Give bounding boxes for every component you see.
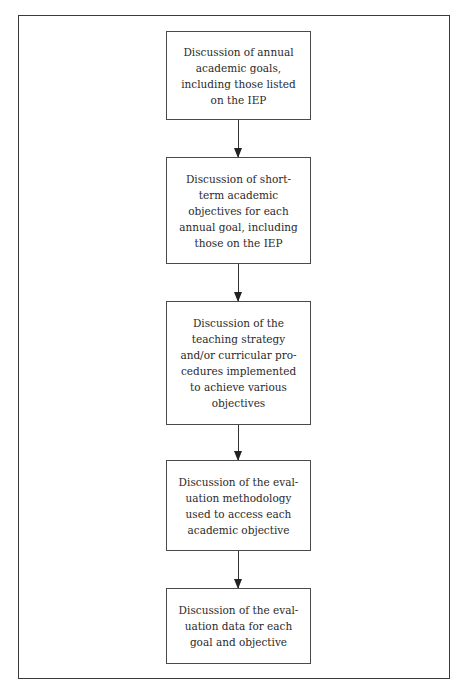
flow-step-evaluation-data: Discussion of the eval- uation data for … bbox=[166, 588, 311, 664]
flow-step-annual-goals: Discussion of annual academic goals, inc… bbox=[166, 31, 311, 120]
flow-step-evaluation-methodology: Discussion of the eval- uation methodolo… bbox=[166, 460, 311, 551]
flow-step-label: Discussion of short- term academic objec… bbox=[179, 171, 298, 251]
flow-step-label: Discussion of the eval- uation methodolo… bbox=[179, 474, 299, 538]
arrow-down-icon bbox=[238, 264, 239, 301]
flow-step-label: Discussion of annual academic goals, inc… bbox=[181, 44, 296, 108]
arrow-down-icon bbox=[238, 425, 239, 460]
flow-step-label: Discussion of the teaching strategy and/… bbox=[180, 315, 296, 411]
arrow-down-icon bbox=[238, 120, 239, 157]
flow-step-teaching-strategy: Discussion of the teaching strategy and/… bbox=[166, 301, 311, 425]
arrow-down-icon bbox=[238, 551, 239, 588]
flow-step-short-term-objectives: Discussion of short- term academic objec… bbox=[166, 157, 311, 264]
flow-step-label: Discussion of the eval- uation data for … bbox=[179, 602, 299, 650]
